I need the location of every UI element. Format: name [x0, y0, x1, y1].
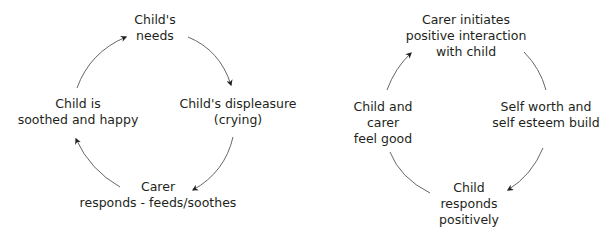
node-line: with child	[406, 44, 527, 60]
node-line: feel good	[353, 131, 412, 147]
node-line: responds - feeds/soothes	[80, 195, 237, 211]
node-feel-good: Child and carer feel good	[353, 99, 412, 147]
node-childs-needs: Child's needs	[134, 12, 175, 44]
node-line: (crying)	[179, 112, 296, 128]
node-childs-displeasure: Child's displeasure (crying)	[179, 96, 296, 128]
node-line: positive interaction	[406, 28, 527, 44]
node-line: Child	[439, 180, 499, 196]
arc-initiates-to-selfworth	[524, 52, 546, 90]
arrow-soothed-to-needs	[77, 37, 126, 88]
node-carer-responds: Carer responds - feeds/soothes	[80, 179, 237, 211]
node-line: Child's displeasure	[179, 96, 296, 112]
node-line: self esteem build	[492, 115, 599, 131]
arrow-selfworth-to-responds	[508, 148, 543, 190]
node-carer-initiates: Carer initiates positive interaction wit…	[406, 12, 527, 60]
node-line: Carer	[80, 179, 237, 195]
node-line: Carer initiates	[406, 12, 527, 28]
arc-responds-to-feelgood	[390, 152, 430, 193]
node-line: carer	[353, 115, 412, 131]
node-line: Child's	[134, 12, 175, 28]
arrow-needs-to-displeasure	[188, 37, 231, 85]
node-line: Child and	[353, 99, 412, 115]
node-self-worth: Self worth and self esteem build	[492, 99, 599, 131]
node-line: Self worth and	[492, 99, 599, 115]
node-line: positively	[439, 212, 499, 228]
node-line: soothed and happy	[18, 112, 139, 128]
node-line: responds	[439, 196, 499, 212]
node-child-soothed: Child is soothed and happy	[18, 96, 139, 128]
node-line: needs	[134, 28, 175, 44]
node-child-responds: Child responds positively	[439, 180, 499, 228]
node-line: Child is	[18, 96, 139, 112]
